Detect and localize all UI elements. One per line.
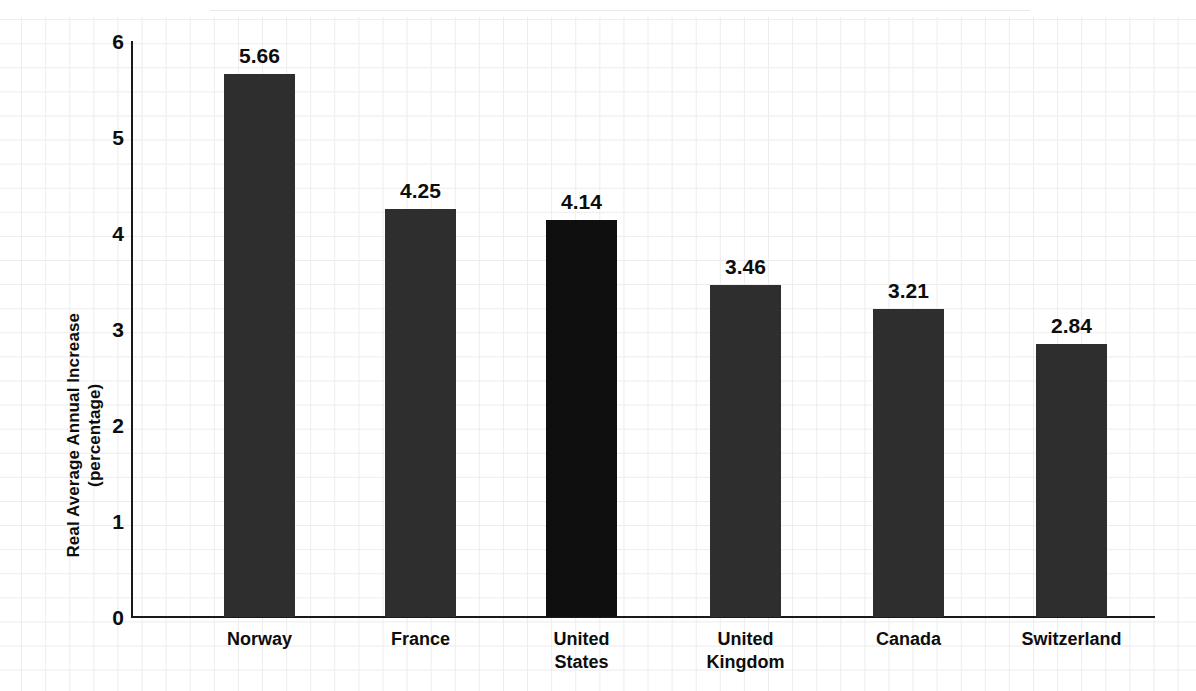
y-axis-line bbox=[131, 41, 133, 618]
x-label-united-states: United States bbox=[502, 628, 661, 674]
bar-united-states[interactable] bbox=[546, 220, 617, 617]
bar-value-canada: 3.21 bbox=[849, 280, 968, 301]
y-tick-3: 3 bbox=[96, 319, 124, 340]
bar-norway[interactable] bbox=[224, 74, 295, 617]
bar-chart-plot: Real Average Annual Increase (percentage… bbox=[0, 0, 1196, 691]
x-label-canada: Canada bbox=[829, 628, 988, 651]
bar-canada[interactable] bbox=[873, 309, 944, 617]
bar-value-france: 4.25 bbox=[361, 180, 480, 201]
y-axis-title-line1: Real Average Annual Increase bbox=[64, 313, 83, 558]
y-tick-4: 4 bbox=[96, 223, 124, 244]
bar-switzerland[interactable] bbox=[1036, 344, 1107, 617]
x-label-united-kingdom: United Kingdom bbox=[666, 628, 825, 674]
y-tick-5: 5 bbox=[96, 127, 124, 148]
x-label-norway: Norway bbox=[180, 628, 339, 651]
bar-united-kingdom[interactable] bbox=[710, 285, 781, 617]
x-label-switzerland: Switzerland bbox=[992, 628, 1151, 651]
y-axis-tick-labels: 0 1 2 3 4 5 6 bbox=[90, 0, 124, 691]
bar-value-united-states: 4.14 bbox=[522, 191, 641, 212]
y-tick-0: 0 bbox=[96, 607, 124, 628]
y-tick-1: 1 bbox=[96, 511, 124, 532]
chart-page: Real Average Annual Increase (percentage… bbox=[0, 0, 1196, 691]
bar-value-united-kingdom: 3.46 bbox=[686, 256, 805, 277]
bar-value-norway: 5.66 bbox=[200, 45, 319, 66]
bar-france[interactable] bbox=[385, 209, 456, 617]
bar-value-switzerland: 2.84 bbox=[1012, 315, 1131, 336]
y-tick-2: 2 bbox=[96, 415, 124, 436]
x-label-france: France bbox=[341, 628, 500, 651]
y-tick-6: 6 bbox=[96, 31, 124, 52]
